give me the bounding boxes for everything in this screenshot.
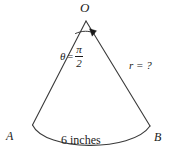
cone-sector-figure: O A B r = ? 6 inches θ = π 2 (0, 0, 173, 160)
fraction-denominator: 2 (75, 57, 83, 69)
angle-label: θ = π 2 (60, 44, 83, 69)
radius-label: r = ? (129, 60, 152, 71)
apex-label-o: O (80, 1, 89, 14)
fraction-numerator: π (75, 44, 83, 56)
right-slant-line (86, 21, 150, 126)
arc-length-label: 6 inches (61, 134, 101, 146)
pi-over-two-fraction: π 2 (75, 44, 83, 69)
theta-symbol: θ (60, 51, 65, 62)
angle-arrowhead (90, 29, 97, 36)
equals-symbol: = (67, 52, 73, 62)
right-base-label-b: B (154, 131, 161, 143)
left-base-label-a: A (6, 130, 13, 142)
left-slant-line (33, 21, 87, 125)
